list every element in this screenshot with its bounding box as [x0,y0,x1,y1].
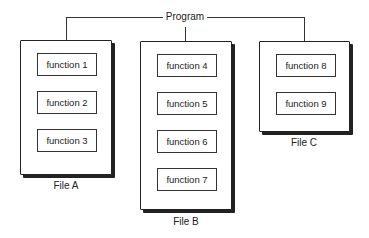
function-box: function 7 [157,168,217,191]
function-box: function 5 [157,92,217,115]
function-box: function 8 [276,54,336,77]
function-box: function 3 [37,129,97,152]
function-box: function 2 [37,91,97,114]
function-box: function 1 [37,53,97,76]
function-box: function 6 [157,130,217,153]
file-b-box: function 4 function 5 function 6 functio… [140,41,232,210]
file-a-label: File A [36,180,96,191]
file-a-box: function 1 function 2 function 3 [20,40,112,175]
file-c-box: function 8 function 9 [259,41,350,132]
connector-file-a [66,17,67,40]
file-c-label: File C [274,137,334,148]
function-box: function 9 [276,92,336,115]
connector-file-b [185,27,186,41]
file-b-label: File B [156,216,216,227]
function-box: function 4 [157,54,217,77]
program-label: Program [163,10,207,24]
connector-file-c [304,17,305,41]
